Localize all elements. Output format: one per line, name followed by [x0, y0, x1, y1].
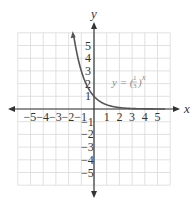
y-tick-label: −3: [81, 140, 94, 154]
y-tick-label: −4: [81, 153, 94, 167]
y-axis-down-arrow-icon: [91, 191, 97, 198]
y-tick-label: −5: [81, 166, 94, 180]
x-tick-label: −2: [62, 110, 75, 124]
x-tick-label: 5: [155, 110, 161, 124]
equation-label: y = ( 1 3 ) x: [111, 73, 146, 90]
y-axis-up-arrow-icon: [91, 22, 97, 29]
y-axis-label: y: [89, 6, 97, 21]
y-tick-label: −2: [81, 127, 94, 141]
y-tick-label: 4: [85, 51, 91, 65]
curve-arrowhead-icon: [71, 31, 76, 38]
equation-exponent: x: [141, 73, 146, 82]
x-axis-right-arrow-icon: [173, 106, 180, 112]
y-tick-label: −1: [81, 115, 94, 129]
x-tick-label: 3: [129, 110, 135, 124]
x-tick-label: 4: [142, 110, 148, 124]
y-tick-label: 3: [85, 64, 91, 78]
x-tick-label: −3: [49, 110, 62, 124]
x-axis-left-arrow-icon: [8, 106, 15, 112]
x-tick-label: −5: [24, 110, 37, 124]
x-axis-label: x: [183, 101, 190, 116]
x-tick-label: 1: [104, 110, 110, 124]
equation-prefix: y = (: [111, 76, 135, 89]
y-tick-label: 5: [85, 39, 91, 53]
x-tick-label: −4: [36, 110, 49, 124]
equation-denominator: 3: [133, 82, 137, 90]
x-tick-label: 2: [116, 110, 122, 124]
exponential-graph: −5−4−3−2−112345−5−4−3−2−112345 x y y = (…: [0, 0, 195, 205]
equation-numerator: 1: [133, 74, 137, 82]
